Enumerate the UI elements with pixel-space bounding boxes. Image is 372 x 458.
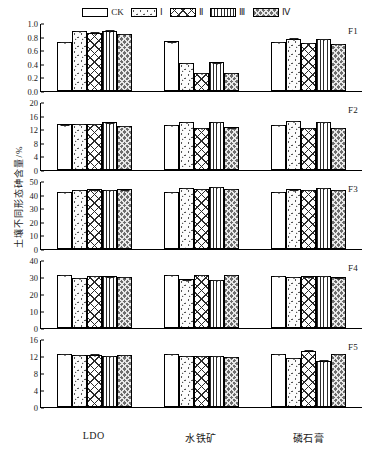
error-bar-stem (202, 74, 203, 75)
error-bar-stem (125, 35, 126, 36)
bar-series-1 (179, 122, 194, 170)
error-bar-stem (339, 129, 340, 130)
error-bar-stem (339, 355, 340, 356)
bar-groups (41, 103, 362, 170)
error-bar (319, 188, 328, 189)
x-axis-labels: LDO水铁矿磷石膏 (40, 430, 362, 446)
error-bar (105, 123, 114, 124)
error-bar-stem (187, 357, 188, 358)
bar-series-4 (331, 128, 346, 171)
y-tick-label: 12 (30, 125, 42, 135)
error-bar-stem (309, 278, 310, 279)
error-bar-stem (309, 351, 310, 353)
bars (255, 261, 362, 328)
bar-group (148, 340, 255, 407)
error-bar-stem (339, 279, 340, 280)
bar-ck (57, 354, 72, 407)
bar-group (41, 103, 148, 170)
bar-ck (164, 354, 179, 407)
panel-f4: F4010203040 (40, 261, 362, 329)
error-bar-stem (187, 281, 188, 282)
error-bar-stem (217, 188, 218, 189)
error-bar (182, 356, 191, 357)
bar-series-1 (72, 31, 87, 91)
bar-group (41, 24, 148, 91)
error-bar-stem (309, 129, 310, 130)
error-bar (304, 43, 313, 44)
y-tick-label: 40 (30, 256, 42, 266)
error-bar (120, 277, 129, 278)
error-bar-stem (294, 278, 295, 279)
error-bar (90, 124, 99, 125)
error-bar (120, 34, 129, 35)
legend-swatch-series-1 (131, 8, 157, 17)
bar-series-4 (331, 277, 346, 328)
error-bar-stem (232, 358, 233, 359)
error-bar-stem (187, 189, 188, 190)
bar-group (41, 261, 148, 328)
y-tick-label: 4 (34, 152, 41, 162)
bar-series-1 (286, 358, 301, 407)
error-bar (289, 277, 298, 278)
bar-series-3 (316, 122, 331, 170)
error-bar (167, 42, 176, 43)
bar-ck (271, 354, 286, 407)
error-bar-stem (309, 191, 310, 192)
plot-area-f5: F50481216 (40, 340, 362, 408)
error-bar (90, 190, 99, 191)
error-bar (105, 30, 114, 31)
error-bar-stem (232, 276, 233, 277)
error-bar-stem (65, 355, 66, 357)
error-bar-stem (202, 276, 203, 277)
error-bar (60, 125, 69, 126)
bars (148, 340, 255, 407)
error-bar-stem (217, 64, 218, 65)
x-axis-label-1: LDO (40, 430, 147, 446)
error-bar-stem (339, 191, 340, 192)
error-bar (334, 128, 343, 129)
error-bar-stem (110, 278, 111, 279)
legend-label: Ⅳ (282, 8, 290, 17)
error-bar (182, 188, 191, 189)
bar-group (41, 182, 148, 249)
error-bar-stem (125, 191, 126, 192)
bar-series-1 (286, 277, 301, 328)
bars (41, 103, 148, 170)
error-bar (182, 280, 191, 281)
bar-series-4 (117, 126, 132, 170)
error-bar (105, 277, 114, 278)
bar-series-2 (194, 275, 209, 328)
bar-series-1 (179, 188, 194, 249)
error-bar (274, 354, 283, 355)
error-bar-stem (110, 124, 111, 125)
error-bar (227, 189, 236, 190)
bar-series-4 (117, 355, 132, 407)
y-tick-mark (41, 329, 44, 330)
y-tick-label: 16 (30, 112, 42, 122)
error-bar-stem (65, 43, 66, 44)
y-tick-label: 20 (30, 98, 42, 108)
bar-series-3 (316, 39, 331, 91)
y-tick-label: 0.8 (27, 33, 41, 43)
legend-label: Ⅰ (160, 8, 163, 17)
error-bar-stem (202, 357, 203, 358)
bar-series-3 (102, 122, 117, 170)
y-tick-label: 0.2 (27, 73, 41, 83)
bar-groups (41, 24, 362, 91)
bar-series-2 (194, 189, 209, 249)
bar-series-1 (72, 124, 87, 170)
bar-series-4 (224, 73, 239, 91)
error-bar-stem (125, 356, 126, 357)
y-tick-label: 8 (34, 369, 41, 379)
error-bar-stem (232, 74, 233, 75)
error-bar-stem (65, 193, 66, 194)
error-bar-stem (187, 123, 188, 124)
bar-series-1 (72, 190, 87, 249)
error-bar-stem (80, 32, 81, 33)
bar-series-3 (102, 31, 117, 91)
bars (148, 24, 255, 91)
y-tick-label: 0 (34, 166, 41, 176)
error-bar (167, 192, 176, 193)
error-bar (212, 280, 221, 281)
bar-ck (164, 275, 179, 328)
